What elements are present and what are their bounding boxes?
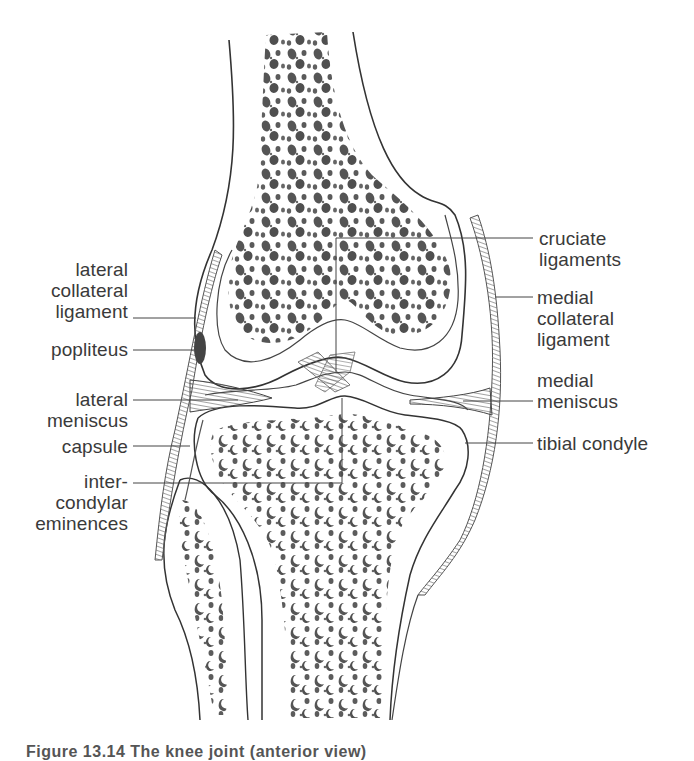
fibula [164,478,248,720]
label-medial-collateral-ligament: medial collateral ligament [537,287,614,350]
label-capsule: capsule [62,436,128,457]
label-popliteus: popliteus [51,339,128,360]
label-medial-meniscus: medial meniscus [537,370,618,412]
femur [195,32,466,389]
label-cruciate-ligaments: cruciate ligaments [539,228,621,270]
figure-caption: Figure 13.14 The knee joint (anterior vi… [26,743,367,761]
label-intercondylar-eminences: inter- condylar eminences [35,471,128,534]
label-tibial-condyle: tibial condyle [537,433,648,454]
label-lateral-meniscus: lateral meniscus [47,389,128,431]
popliteus [194,332,206,364]
label-lateral-collateral-ligament: lateral collateral ligament [51,259,128,322]
tibia [194,372,468,720]
